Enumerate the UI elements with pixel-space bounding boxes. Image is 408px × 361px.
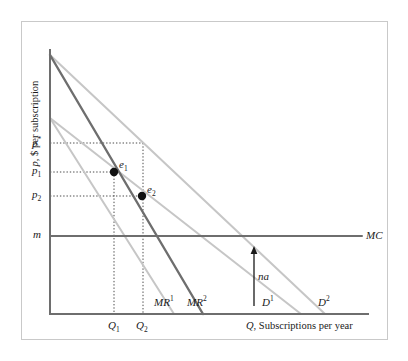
x-tick-q1: Q1 — [108, 319, 120, 334]
point-e1 — [110, 168, 118, 176]
curve-MR1 — [50, 118, 174, 314]
x-axis-title: Q, Subscriptions per year — [246, 320, 353, 331]
curve-MR2 — [50, 55, 203, 314]
y-tick-p2: p2 — [32, 188, 41, 203]
curve-D1 — [50, 118, 301, 314]
light-curves — [50, 55, 325, 314]
label-MC: MC — [366, 229, 383, 241]
label-MR2: MR2 — [187, 294, 207, 308]
label-e1: e1 — [119, 158, 128, 173]
guide-lines — [50, 143, 143, 314]
x-tick-q2: Q2 — [136, 319, 148, 334]
y-tick-pstar: p* — [32, 135, 41, 149]
label-D1: D1 — [262, 294, 274, 308]
label-e2: e2 — [147, 183, 156, 198]
y-tick-p1: p1 — [32, 164, 41, 179]
label-na: na — [258, 270, 269, 282]
point-e2 — [138, 192, 146, 200]
label-D2: D2 — [318, 294, 330, 308]
y-axis-title: p, $ per subscription — [29, 44, 40, 204]
axes — [50, 50, 368, 314]
y-tick-m: m — [33, 228, 41, 240]
label-MR1: MR1 — [154, 294, 174, 308]
